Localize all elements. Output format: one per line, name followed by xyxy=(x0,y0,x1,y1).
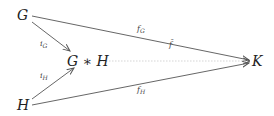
arrow-fG xyxy=(32,16,249,60)
diagram-arrows xyxy=(0,0,274,116)
arrow-iH xyxy=(32,68,74,99)
node-G-free-product-H: G ∗ H xyxy=(67,54,109,68)
node-H: H xyxy=(17,98,29,112)
node-K: K xyxy=(252,54,262,68)
arrow-iG xyxy=(32,22,70,51)
node-G: G xyxy=(17,8,28,22)
label-fbar: f̄ xyxy=(169,41,172,49)
commutative-diagram: G G ∗ H H K iG iH fG f̄ fH xyxy=(0,0,274,116)
label-iH: iH xyxy=(40,72,48,81)
label-fG: fG xyxy=(137,25,145,34)
label-fH: fH xyxy=(137,86,145,95)
label-iG: iG xyxy=(40,40,47,49)
arrow-fH xyxy=(32,63,249,105)
